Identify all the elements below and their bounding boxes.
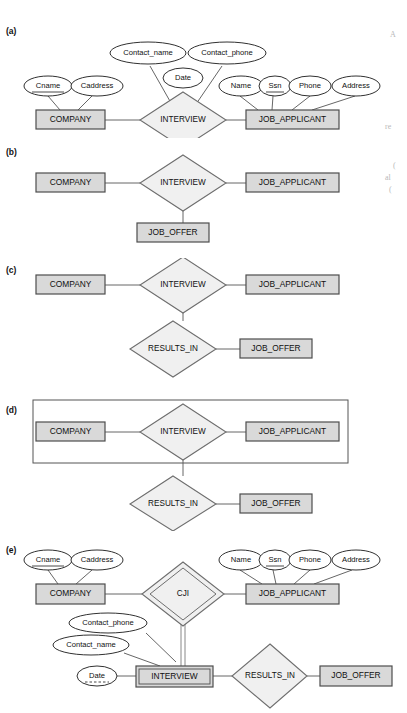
entity-company-d[interactable]: COMPANY	[36, 422, 105, 441]
attribute-ssn-e[interactable]: Ssn	[259, 550, 291, 570]
entity-company-b[interactable]: COMPANY	[36, 173, 105, 192]
attribute-address-label: Address	[342, 555, 370, 564]
attribute-contact-name-label: Contact_name	[123, 48, 172, 57]
attribute-caddress-e[interactable]: Caddress	[71, 550, 123, 570]
attribute-address-e[interactable]: Address	[332, 550, 380, 570]
entity-company-label: COMPANY	[50, 177, 92, 187]
relationship-results-in-e[interactable]: RESULTS_IN	[232, 644, 307, 708]
attribute-cname-e[interactable]: Cname	[24, 550, 72, 570]
entity-job-applicant-a[interactable]: JOB_APPLICANT	[246, 110, 339, 129]
entity-job-applicant-label: JOB_APPLICANT	[259, 279, 327, 289]
edge-phone-applicant	[292, 96, 310, 110]
diagram-d: COMPANY INTERVIEW JOB_APPLICANT RESULTS_…	[0, 396, 407, 531]
attribute-phone-a[interactable]: Phone	[289, 76, 331, 96]
edge-phone-applicant	[294, 570, 310, 584]
attribute-name-a[interactable]: Name	[219, 76, 263, 96]
attribute-address-a[interactable]: Address	[332, 76, 380, 96]
attribute-cname-a[interactable]: Cname	[24, 76, 72, 96]
entity-job-applicant-e[interactable]: JOB_APPLICANT	[246, 584, 339, 604]
attribute-contact-phone-e[interactable]: Contact_phone	[69, 613, 147, 633]
relationship-interview-label: INTERVIEW	[160, 115, 206, 124]
entity-job-offer-label: JOB_OFFER	[251, 498, 300, 508]
entity-job-applicant-label: JOB_APPLICANT	[259, 177, 327, 187]
attribute-phone-e[interactable]: Phone	[289, 550, 331, 570]
entity-job-offer-d[interactable]: JOB_OFFER	[240, 494, 312, 513]
relationship-results-in-label: RESULTS_IN	[148, 499, 198, 508]
entity-company-label: COMPANY	[50, 279, 92, 289]
weak-entity-interview-e[interactable]: INTERVIEW	[136, 666, 213, 687]
entity-job-applicant-label: JOB_APPLICANT	[259, 114, 327, 124]
edge-ssn-applicant	[273, 570, 276, 584]
diagram-a: COMPANY INTERVIEW JOB_APPLICANT Cname Ca…	[0, 18, 407, 138]
relationship-interview-d[interactable]: INTERVIEW	[140, 404, 226, 460]
edge-contactname-interview	[124, 653, 160, 666]
relationship-interview-b[interactable]: INTERVIEW	[140, 155, 226, 211]
edge-cname-company	[48, 96, 60, 110]
attribute-caddress-label: Caddress	[81, 81, 114, 90]
attribute-ssn-label: Ssn	[268, 555, 281, 564]
attribute-phone-label: Phone	[299, 81, 321, 90]
relationship-results-in-label: RESULTS_IN	[148, 344, 198, 353]
edge-cname-company	[48, 570, 58, 584]
relationship-interview-label: INTERVIEW	[160, 178, 206, 187]
entity-job-offer-label: JOB_OFFER	[251, 343, 300, 353]
attribute-contact-phone-label: Contact_phone	[82, 618, 134, 627]
attribute-cname-label: Cname	[36, 555, 60, 564]
attribute-contact-phone-a[interactable]: Contact_phone	[188, 42, 266, 64]
relationship-results-in-label: RESULTS_IN	[245, 671, 295, 680]
entity-company-label: COMPANY	[50, 114, 92, 124]
entity-company-e[interactable]: COMPANY	[36, 584, 105, 604]
entity-job-applicant-label: JOB_APPLICANT	[259, 426, 327, 436]
attribute-ssn-a[interactable]: Ssn	[259, 76, 291, 96]
entity-job-offer-b[interactable]: JOB_OFFER	[137, 223, 209, 242]
edge-name-applicant	[240, 96, 258, 110]
entity-job-applicant-d[interactable]: JOB_APPLICANT	[246, 422, 339, 441]
attribute-name-label: Name	[231, 81, 251, 90]
diagram-b: COMPANY INTERVIEW JOB_APPLICANT JOB_OFFE…	[0, 145, 407, 255]
entity-job-applicant-label: JOB_APPLICANT	[259, 588, 327, 598]
attribute-date-a[interactable]: Date	[163, 68, 203, 88]
edge-contactphone-interview	[146, 633, 176, 662]
attribute-cname-label: Cname	[36, 81, 60, 90]
attribute-caddress-a[interactable]: Caddress	[71, 76, 123, 96]
relationship-interview-c[interactable]: INTERVIEW	[140, 258, 226, 313]
edge-address-applicant	[312, 96, 355, 110]
entity-company-a[interactable]: COMPANY	[36, 110, 105, 129]
entity-company-c[interactable]: COMPANY	[36, 275, 105, 294]
entity-company-label: COMPANY	[50, 588, 92, 598]
identifying-double-line	[181, 622, 185, 666]
relationship-results-in-c[interactable]: RESULTS_IN	[130, 321, 216, 377]
relationship-results-in-d[interactable]: RESULTS_IN	[130, 476, 216, 531]
attribute-contact-phone-label: Contact_phone	[201, 48, 253, 57]
attribute-date-e[interactable]: Date	[77, 666, 117, 686]
entity-job-offer-e[interactable]: JOB_OFFER	[320, 666, 392, 686]
relationship-cji-label: CJI	[177, 589, 189, 598]
attribute-ssn-label: Ssn	[268, 81, 281, 90]
edge-address-applicant	[314, 570, 352, 584]
edge-ssn-applicant	[272, 96, 273, 110]
edge-caddress-company	[78, 96, 92, 110]
weak-entity-interview-label: INTERVIEW	[151, 671, 197, 681]
relationship-interview-a[interactable]: INTERVIEW	[140, 92, 226, 138]
entity-job-applicant-b[interactable]: JOB_APPLICANT	[246, 173, 339, 192]
edge-name-applicant	[240, 570, 262, 584]
attribute-name-label: Name	[231, 555, 251, 564]
relationship-cji-e[interactable]: CJI	[142, 562, 224, 626]
attribute-contact-name-e[interactable]: Contact_name	[53, 635, 129, 655]
diagram-e: COMPANY CJI JOB_APPLICANT INTERVIEW RESU…	[0, 540, 407, 713]
diagram-c: COMPANY INTERVIEW JOB_APPLICANT RESULTS_…	[0, 258, 407, 378]
edge-caddress-company	[76, 570, 92, 584]
entity-job-applicant-c[interactable]: JOB_APPLICANT	[246, 275, 339, 294]
entity-job-offer-label: JOB_OFFER	[148, 227, 197, 237]
er-diagram-figure: (a) (b) (c) (d) (e) A re ( al ( COMPANY	[0, 0, 407, 713]
relationship-interview-label: INTERVIEW	[160, 280, 206, 289]
entity-job-offer-c[interactable]: JOB_OFFER	[240, 339, 312, 358]
attribute-caddress-label: Caddress	[81, 555, 114, 564]
attribute-date-label: Date	[175, 73, 191, 82]
attribute-name-e[interactable]: Name	[219, 550, 263, 570]
entity-company-label: COMPANY	[50, 426, 92, 436]
attribute-contact-name-a[interactable]: Contact_name	[110, 42, 186, 64]
attribute-contact-name-label: Contact_name	[66, 640, 115, 649]
relationship-interview-label: INTERVIEW	[160, 427, 206, 436]
entity-job-offer-label: JOB_OFFER	[331, 670, 380, 680]
